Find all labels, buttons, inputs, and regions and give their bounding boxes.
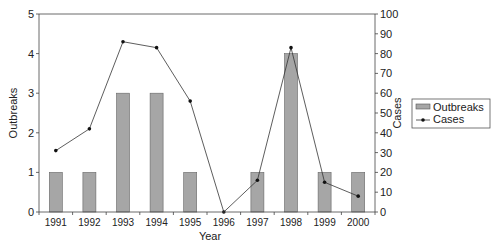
legend-outbreaks-label: Outbreaks — [433, 101, 484, 113]
bar-outbreaks-1993 — [117, 93, 130, 212]
legend-outbreaks-swatch-icon — [416, 104, 430, 109]
left-tick-label: 1 — [28, 166, 34, 178]
plot-area — [39, 14, 375, 214]
right-tick-label: 100 — [380, 8, 398, 20]
right-tick-label: 30 — [380, 147, 392, 159]
x-tick-label: 1995 — [179, 217, 202, 228]
right-tick-label: 90 — [380, 28, 392, 40]
marker-cases-1997 — [256, 179, 260, 183]
bar-outbreaks-1994 — [150, 93, 163, 212]
x-tick-label: 1993 — [112, 217, 135, 228]
right-tick-label: 80 — [380, 48, 392, 60]
x-tick-label: 1999 — [313, 217, 336, 228]
x-tick-label: 1994 — [145, 217, 168, 228]
bar-outbreaks-1992 — [83, 172, 96, 212]
bar-outbreaks-1999 — [318, 172, 331, 212]
marker-cases-1995 — [188, 99, 192, 103]
right-tick-label: 0 — [380, 206, 386, 218]
left-tick-label: 2 — [28, 127, 34, 139]
marker-cases-1992 — [88, 127, 92, 131]
x-tick-label: 1991 — [45, 217, 68, 228]
right-tick-label: 20 — [380, 166, 392, 178]
left-tick-label: 5 — [28, 8, 34, 20]
legend-cases-label: Cases — [433, 113, 465, 125]
marker-cases-1991 — [54, 149, 58, 153]
x-tick-label: 1996 — [213, 217, 236, 228]
left-y-axis-label: Outbreaks — [7, 87, 19, 138]
right-tick-label: 70 — [380, 67, 392, 79]
marker-cases-1998 — [289, 46, 293, 50]
bar-outbreaks-1997 — [251, 172, 264, 212]
left-tick-label: 4 — [28, 48, 34, 60]
bar-outbreaks-1995 — [184, 172, 197, 212]
x-tick-label: 1992 — [78, 217, 101, 228]
left-tick-label: 3 — [28, 87, 34, 99]
bar-outbreaks-1991 — [49, 172, 62, 212]
legend: Outbreaks Cases — [412, 99, 490, 128]
marker-cases-1994 — [155, 46, 159, 50]
legend-cases-marker-icon — [421, 118, 425, 122]
right-tick-label: 10 — [380, 186, 392, 198]
line-cases — [56, 42, 358, 212]
x-axis: 1991199219931994199519961997199819992000 — [39, 212, 375, 228]
x-tick-label: 1998 — [280, 217, 303, 228]
marker-cases-2000 — [356, 194, 360, 198]
right-tick-label: 60 — [380, 87, 392, 99]
outbreaks-cases-chart: 012345 0102030405060708090100 1991199219… — [0, 0, 496, 252]
right-y-axis-label: Cases — [391, 97, 403, 129]
left-tick-label: 0 — [28, 206, 34, 218]
bar-outbreaks-2000 — [352, 172, 365, 212]
marker-cases-1999 — [323, 181, 327, 185]
marker-cases-1993 — [121, 40, 125, 44]
x-axis-label: Year — [199, 230, 222, 242]
left-y-axis: 012345 — [28, 8, 39, 218]
x-tick-label: 1997 — [246, 217, 269, 228]
x-tick-label: 2000 — [347, 217, 370, 228]
bar-outbreaks-1998 — [285, 54, 298, 212]
